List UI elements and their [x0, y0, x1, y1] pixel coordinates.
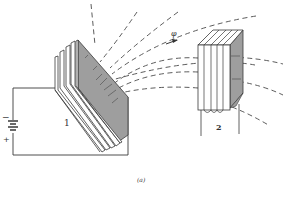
coil-1-label: 1	[64, 118, 70, 128]
flux-label: φ	[171, 29, 177, 38]
coil-1	[55, 40, 128, 152]
battery-minus-label: −	[2, 112, 10, 122]
battery-plus-label: +	[3, 135, 10, 144]
mutual-inductance-diagram: φ − +	[0, 0, 283, 211]
arrowhead-icon	[172, 39, 178, 43]
coil-2-label: 2	[216, 122, 222, 132]
battery-icon	[8, 121, 18, 130]
coil-2	[198, 30, 243, 136]
figure-caption: (a)	[137, 176, 146, 183]
